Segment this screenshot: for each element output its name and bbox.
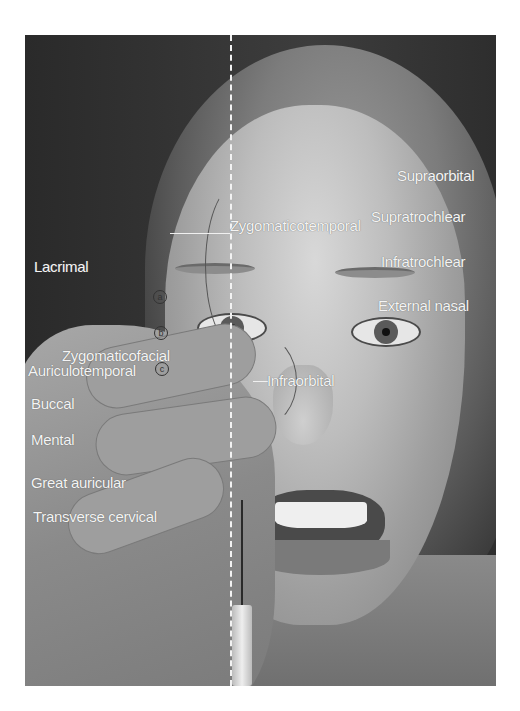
teeth xyxy=(275,502,367,528)
marker-b: b xyxy=(154,326,168,340)
label-external-nasal: External nasal xyxy=(378,297,469,314)
marker-c: c xyxy=(155,362,169,376)
leader-zygomaticotemporal xyxy=(170,233,230,234)
syringe-hub xyxy=(232,605,252,686)
midline-dashed-line xyxy=(230,35,232,686)
label-infraorbital: Infraorbital xyxy=(267,372,334,389)
right-eye xyxy=(351,317,421,347)
pupil xyxy=(382,328,390,336)
leader-infraorbital xyxy=(253,381,268,382)
marker-a: a xyxy=(153,290,167,304)
label-zygomaticotemporal: Zygomaticotemporal xyxy=(230,217,361,234)
needle xyxy=(241,500,243,610)
label-transverse-cervical: Transverse cervical xyxy=(33,508,157,525)
label-buccal: Buccal xyxy=(31,395,74,412)
label-auriculotemporal: Auriculotemporal xyxy=(28,362,136,379)
iris xyxy=(374,320,398,344)
label-lacrimal: Lacrimal xyxy=(34,258,88,275)
label-supraorbital: Supraorbital xyxy=(397,167,474,184)
label-infratrochlear: Infratrochlear xyxy=(381,253,465,270)
label-great-auricular: Great auricular xyxy=(31,474,126,491)
nerve-branch xyxy=(205,185,267,347)
label-mental: Mental xyxy=(31,431,74,448)
label-supratrochlear: Supratrochlear xyxy=(371,208,465,225)
